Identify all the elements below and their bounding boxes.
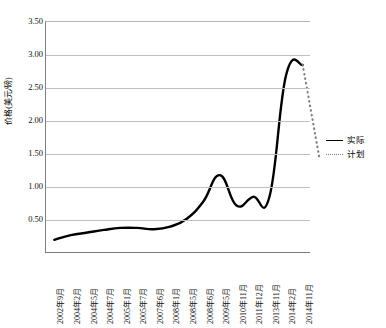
x-axis-tick-label: 2008年1月 (172, 288, 181, 324)
gridline (46, 154, 310, 155)
x-axis-tick-label: 2013年11月 (272, 284, 281, 324)
dotted-line-icon (326, 154, 343, 155)
series-line-2 (303, 65, 320, 157)
gridline (46, 55, 310, 56)
y-axis-title: 价格(美元/磅) (4, 59, 14, 143)
x-axis-tick-label: 2005年7月 (139, 288, 148, 324)
y-axis-tick-label: 1.50 (18, 149, 43, 158)
series-lines (46, 22, 311, 253)
x-axis-tick-label: 2004年7月 (106, 288, 115, 324)
gridline (46, 121, 310, 122)
x-axis-tick-labels: 2002年9月2004年2月2004年5月2004年7月2005年1月2005年… (45, 252, 310, 328)
x-axis-tick-label: 2014年11月 (305, 284, 314, 324)
y-axis-tick-labels: 3.503.002.502.001.501.000.50 (18, 0, 43, 328)
x-axis-tick-label: 2010年11月 (239, 284, 248, 324)
x-axis-tick-label: 2007年6月 (156, 288, 165, 324)
x-axis-tick-label: 2011年12月 (255, 284, 264, 324)
y-axis-tick-label: 2.50 (18, 83, 43, 92)
plot-area (45, 21, 310, 252)
chart-legend: 实际计划 (326, 133, 365, 161)
series-line-1 (54, 59, 302, 239)
gridline (46, 187, 310, 188)
y-axis-tick-label: 0.50 (18, 215, 43, 224)
legend-item[interactable]: 计划 (326, 147, 365, 161)
gridline (46, 220, 310, 221)
legend-item-label: 实际 (347, 133, 365, 147)
x-axis-tick-label: 2004年5月 (90, 288, 99, 324)
x-axis-tick-label: 2014年2月 (288, 288, 297, 324)
y-axis-tick-label: 2.00 (18, 116, 43, 125)
x-axis-tick-label: 2005年1月 (123, 288, 132, 324)
x-axis-tick-label: 2008年5月 (189, 288, 198, 324)
legend-item-label: 计划 (347, 147, 365, 161)
y-axis-tick-label: 1.00 (18, 182, 43, 191)
solid-line-icon (326, 140, 343, 141)
x-axis-tick-label: 2004年2月 (73, 288, 82, 324)
legend-item[interactable]: 实际 (326, 133, 365, 147)
gridline (46, 88, 310, 89)
x-axis-tick-label: 2002年9月 (56, 288, 65, 324)
y-axis-tick-label: 3.00 (18, 50, 43, 59)
line-chart: 价格(美元/磅) 3.503.002.502.001.501.000.50 20… (0, 0, 386, 328)
x-axis-tick-label: 2009年5月 (222, 288, 231, 324)
x-axis-tick-label: 2008年6月 (206, 288, 215, 324)
y-axis-tick-label: 3.50 (18, 17, 43, 26)
